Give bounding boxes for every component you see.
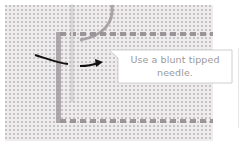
photo-frame: Use a blunt tipped needle.	[0, 0, 243, 144]
callout-line-2: needle.	[120, 66, 230, 79]
callout-line-1: Use a blunt tipped	[120, 53, 230, 66]
needle	[71, 5, 73, 101]
callout-text: Use a blunt tipped needle.	[120, 53, 230, 79]
